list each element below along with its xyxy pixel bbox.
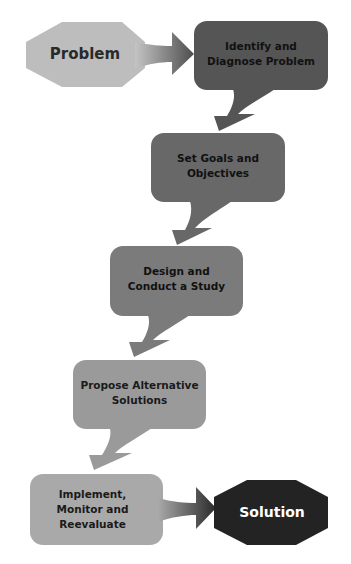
solution-label: Solution [220,480,324,545]
step1-tail-arrow [214,89,275,131]
step3-label: Design and Conduct a Study [118,249,235,309]
step4-tail-arrow [89,428,152,470]
step2-label: Set Goals and Objectives [166,136,270,196]
arrow-step5-to-solution [158,487,216,529]
problem-label: Problem [30,22,140,87]
step3-tail-arrow [129,315,190,357]
step4-label: Propose Alternative Solutions [80,363,199,423]
step2-tail-arrow [172,201,232,245]
step1-label: Identify and Diagnose Problem [204,24,318,84]
step5-label: Implement, Monitor and Reevaluate [36,479,149,539]
